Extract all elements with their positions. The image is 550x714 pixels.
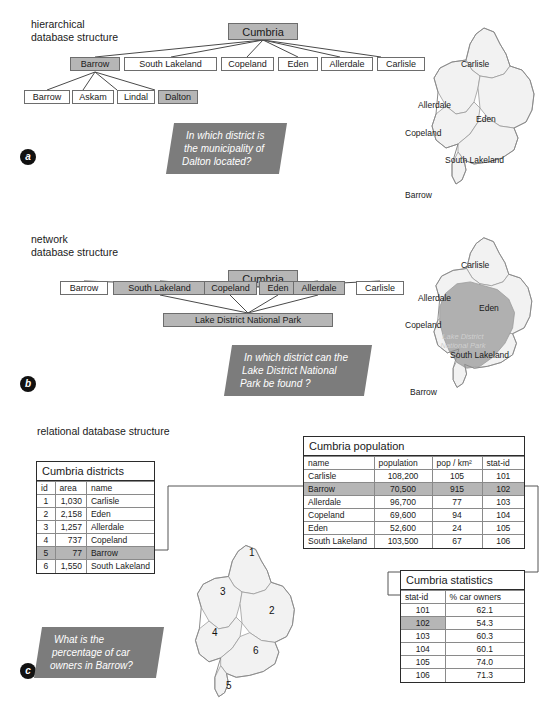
cell-population: 103,500 bbox=[374, 535, 432, 548]
map-c-number-6: 6 bbox=[253, 645, 259, 656]
cell-density: 915 bbox=[432, 483, 482, 496]
cell-name: Eden bbox=[304, 522, 374, 535]
population-header-row: name population pop / km² stat-id bbox=[304, 457, 524, 470]
cell-name: Copeland bbox=[86, 534, 154, 547]
table-row-highlighted[interactable]: 102 54.3 bbox=[401, 617, 524, 630]
table-row[interactable]: Allerdale 96,700 77 103 bbox=[304, 496, 524, 509]
districts-col-area: area bbox=[55, 482, 86, 495]
statistics-col-car-owners: % car owners bbox=[445, 591, 524, 604]
cell-population: 52,600 bbox=[374, 522, 432, 535]
cell-name: South Lakeland bbox=[86, 560, 154, 573]
cell-stat-id: 102 bbox=[401, 617, 445, 630]
table-cumbria-population[interactable]: Cumbria population name population pop /… bbox=[303, 436, 525, 549]
population-col-stat-id: stat-id bbox=[482, 457, 524, 470]
statistics-col-stat-id: stat-id bbox=[401, 591, 445, 604]
table-row[interactable]: South Lakeland 103,500 67 106 bbox=[304, 535, 524, 548]
table-row[interactable]: 105 74.0 bbox=[401, 656, 524, 669]
map-c-number-4: 4 bbox=[212, 627, 218, 638]
table-row[interactable]: Carlisle 108,200 105 101 bbox=[304, 470, 524, 483]
table-row[interactable]: Eden 52,600 24 105 bbox=[304, 522, 524, 535]
table-row[interactable]: 2 2,158 Eden bbox=[37, 508, 154, 521]
cell-name: Carlisle bbox=[304, 470, 374, 483]
districts-table-title: Cumbria districts bbox=[37, 462, 154, 481]
question-callout-c: What is the percentage of car owners in … bbox=[34, 627, 164, 678]
population-table-title: Cumbria population bbox=[304, 437, 524, 456]
cell-population: 96,700 bbox=[374, 496, 432, 509]
table-row-highlighted[interactable]: Barrow 70,500 915 102 bbox=[304, 483, 524, 496]
population-col-density: pop / km² bbox=[432, 457, 482, 470]
cell-car-owners: 60.1 bbox=[445, 643, 524, 656]
cell-id: 1 bbox=[37, 495, 55, 508]
cell-name: Copeland bbox=[304, 509, 374, 522]
cell-area: 77 bbox=[55, 547, 86, 560]
table-row[interactable]: 101 62.1 bbox=[401, 604, 524, 617]
table-row[interactable]: 4 737 Copeland bbox=[37, 534, 154, 547]
map-c-number-1: 1 bbox=[249, 547, 255, 558]
question-c-line-2: percentage of car bbox=[52, 646, 148, 659]
cell-area: 1,030 bbox=[55, 495, 86, 508]
cell-population: 69,600 bbox=[374, 509, 432, 522]
cell-stat-id: 104 bbox=[401, 643, 445, 656]
map-c-number-2: 2 bbox=[269, 605, 275, 616]
table-cumbria-statistics[interactable]: Cumbria statistics stat-id % car owners … bbox=[400, 570, 525, 683]
table-row[interactable]: Copeland 69,600 94 104 bbox=[304, 509, 524, 522]
table-row[interactable]: 3 1,257 Allerdale bbox=[37, 521, 154, 534]
cell-name: South Lakeland bbox=[304, 535, 374, 548]
districts-col-id: id bbox=[37, 482, 55, 495]
cell-area: 2,158 bbox=[55, 508, 86, 521]
cell-stat-id: 105 bbox=[401, 656, 445, 669]
cell-density: 77 bbox=[432, 496, 482, 509]
table-cumbria-districts[interactable]: Cumbria districts id area name 1 1,030 C… bbox=[36, 461, 155, 574]
cell-name: Carlisle bbox=[86, 495, 154, 508]
statistics-table-title: Cumbria statistics bbox=[401, 571, 524, 590]
cell-stat-id: 105 bbox=[482, 522, 524, 535]
question-c-line-1: What is the bbox=[54, 633, 150, 646]
cell-density: 94 bbox=[432, 509, 482, 522]
cell-car-owners: 60.3 bbox=[445, 630, 524, 643]
cell-stat-id: 103 bbox=[401, 630, 445, 643]
cell-name: Allerdale bbox=[304, 496, 374, 509]
table-row[interactable]: 1 1,030 Carlisle bbox=[37, 495, 154, 508]
cell-name: Barrow bbox=[304, 483, 374, 496]
map-c-number-5: 5 bbox=[226, 680, 232, 691]
cell-id: 5 bbox=[37, 547, 55, 560]
cell-car-owners: 62.1 bbox=[445, 604, 524, 617]
table-row[interactable]: 6 1,550 South Lakeland bbox=[37, 560, 154, 573]
cell-area: 1,550 bbox=[55, 560, 86, 573]
table-row[interactable]: 103 60.3 bbox=[401, 630, 524, 643]
cell-stat-id: 101 bbox=[401, 604, 445, 617]
table-row[interactable]: 106 71.3 bbox=[401, 669, 524, 682]
question-c-line-3: owners in Barrow? bbox=[50, 659, 146, 672]
population-col-name: name bbox=[304, 457, 374, 470]
cell-stat-id: 106 bbox=[482, 535, 524, 548]
cell-id: 6 bbox=[37, 560, 55, 573]
districts-col-name: name bbox=[86, 482, 154, 495]
cell-stat-id: 102 bbox=[482, 483, 524, 496]
cell-id: 3 bbox=[37, 521, 55, 534]
cell-density: 67 bbox=[432, 535, 482, 548]
districts-header-row: id area name bbox=[37, 482, 154, 495]
cell-name: Eden bbox=[86, 508, 154, 521]
cell-name: Barrow bbox=[86, 547, 154, 560]
cell-id: 4 bbox=[37, 534, 55, 547]
cell-population: 108,200 bbox=[374, 470, 432, 483]
cell-density: 24 bbox=[432, 522, 482, 535]
cell-population: 70,500 bbox=[374, 483, 432, 496]
cell-stat-id: 104 bbox=[482, 509, 524, 522]
map-c-number-3: 3 bbox=[220, 586, 226, 597]
cell-stat-id: 103 bbox=[482, 496, 524, 509]
map-c bbox=[178, 539, 306, 707]
cell-stat-id: 106 bbox=[401, 669, 445, 682]
cell-id: 2 bbox=[37, 508, 55, 521]
cell-density: 105 bbox=[432, 470, 482, 483]
cell-car-owners: 54.3 bbox=[445, 617, 524, 630]
cell-area: 1,257 bbox=[55, 521, 86, 534]
cell-name: Allerdale bbox=[86, 521, 154, 534]
table-row[interactable]: 104 60.1 bbox=[401, 643, 524, 656]
population-col-population: population bbox=[374, 457, 432, 470]
table-row-highlighted[interactable]: 5 77 Barrow bbox=[37, 547, 154, 560]
statistics-header-row: stat-id % car owners bbox=[401, 591, 524, 604]
cell-stat-id: 101 bbox=[482, 470, 524, 483]
cell-area: 737 bbox=[55, 534, 86, 547]
cell-car-owners: 71.3 bbox=[445, 669, 524, 682]
